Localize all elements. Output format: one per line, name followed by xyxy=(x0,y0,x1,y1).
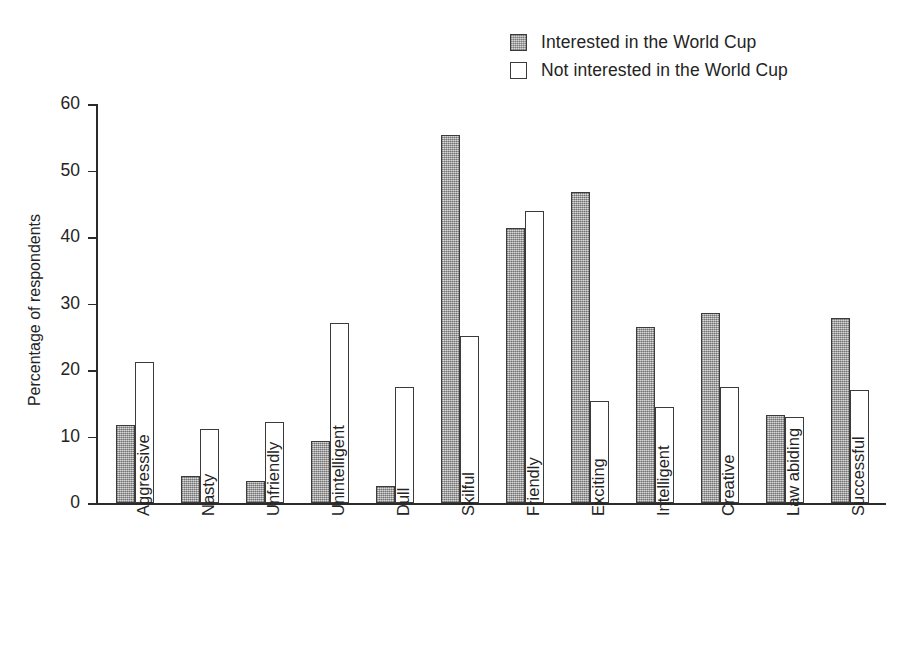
x-axis-category-label: Friendly xyxy=(524,457,543,516)
bar-interested xyxy=(246,481,265,503)
y-axis-tick: 50 xyxy=(88,171,97,173)
y-axis-tick-label: 0 xyxy=(70,492,80,513)
bar-interested xyxy=(506,228,525,503)
y-axis-tick-label: 20 xyxy=(61,359,80,380)
chart-legend: Interested in the World Cup Not interest… xyxy=(510,28,788,84)
bar-interested xyxy=(636,327,655,503)
y-axis-tick-label: 50 xyxy=(61,160,80,181)
bar-not-interested xyxy=(395,387,414,503)
x-axis-category-label: Intelligent xyxy=(654,445,673,516)
y-axis-tick: 10 xyxy=(88,437,97,439)
bar-interested xyxy=(116,425,135,503)
y-axis-tick-label: 30 xyxy=(61,293,80,314)
legend-item-interested: Interested in the World Cup xyxy=(510,28,788,56)
bar-interested xyxy=(701,313,720,503)
x-axis-category-label: Successful xyxy=(849,436,868,516)
y-axis-tick: 20 xyxy=(88,370,97,372)
x-axis-category-label: Exciting xyxy=(589,458,608,516)
plot-area: 0102030405060AggressiveNastyUnfriendlyUn… xyxy=(97,104,887,503)
bar-interested xyxy=(181,476,200,503)
x-axis-category-label: Law abiding xyxy=(784,428,803,516)
legend-swatch-hollow-icon xyxy=(510,62,527,79)
x-axis-category-label: Creative xyxy=(719,455,738,516)
x-axis-category-label: Skilful xyxy=(459,472,478,516)
bar-interested xyxy=(441,135,460,503)
bar-interested xyxy=(311,441,330,503)
y-axis-tick-label: 40 xyxy=(61,226,80,247)
bar-chart: Interested in the World Cup Not interest… xyxy=(0,0,907,655)
x-axis-category-label: Aggressive xyxy=(134,434,153,516)
bar-interested xyxy=(831,318,850,503)
legend-label-not-interested: Not interested in the World Cup xyxy=(541,60,788,81)
legend-item-not-interested: Not interested in the World Cup xyxy=(510,56,788,84)
x-axis-category-label: Dull xyxy=(394,488,413,516)
y-axis-tick-label: 60 xyxy=(61,93,80,114)
x-axis-category-label: Unfriendly xyxy=(264,442,283,516)
y-axis-tick: 40 xyxy=(88,237,97,239)
y-axis-title: Percentage of respondents xyxy=(26,160,44,460)
y-axis-tick: 60 xyxy=(88,104,97,106)
x-axis-category-label: Unintelligent xyxy=(329,425,348,516)
bar-interested xyxy=(376,486,395,503)
legend-swatch-filled-icon xyxy=(510,34,527,51)
bar-interested xyxy=(571,192,590,503)
y-axis-tick-label: 10 xyxy=(61,426,80,447)
bar-interested xyxy=(766,415,785,503)
x-axis-category-label: Nasty xyxy=(199,474,218,516)
y-axis-tick: 30 xyxy=(88,304,97,306)
legend-label-interested: Interested in the World Cup xyxy=(541,32,756,53)
y-axis-tick: 0 xyxy=(88,503,97,505)
